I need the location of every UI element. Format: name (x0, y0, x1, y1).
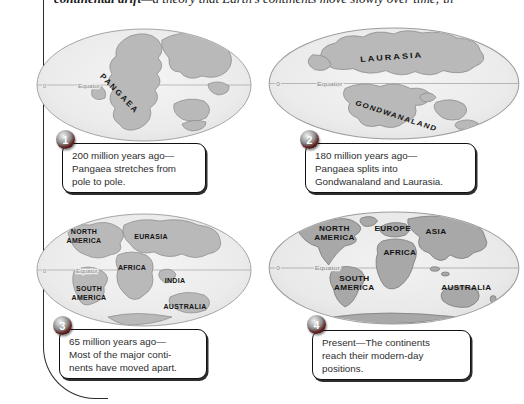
callout-4: Present—The continents reach their moder… (312, 330, 471, 380)
label-eurasia: EURASIA (134, 233, 168, 240)
island-indonesia (441, 272, 449, 276)
callout-text-line: nents have moved apart. (69, 361, 198, 374)
step-badge-2: 2 (300, 130, 319, 149)
callout-1: 200 million years ago— Pangaea stretches… (62, 143, 206, 193)
label-america-s: AMERICA (72, 294, 107, 301)
label-america-s: AMERICA (334, 284, 375, 292)
callout-2: 180 million years ago— Pangaea splits in… (305, 143, 476, 193)
heading-definition: —a theory that Earth's continents move s… (141, 0, 454, 6)
equator-label: Equator (315, 265, 341, 272)
map-laurasia-gondwanaland-180mya: 0 Equator LAURASIA GONDWANALAND (268, 27, 520, 140)
callout-text-line: 65 million years ago— (69, 335, 198, 348)
label-south: SOUTH (339, 275, 369, 283)
label-australia: AUSTRALIA (441, 284, 491, 292)
map-continents-65mya: 0 Equator NORTH AMERICA EURASIA AFRICA S… (36, 213, 252, 327)
callout-text-line: Present—The continents (322, 336, 462, 349)
label-africa: AFRICA (383, 249, 416, 257)
map-continents-present: 0 Equator NORTH AMERICA EUROPE ASIA AFRI… (268, 211, 520, 325)
label-africa: AFRICA (118, 264, 146, 271)
callout-text-line: pole to pole. (72, 175, 197, 188)
callout-text-line: positions. (322, 362, 462, 375)
step-badge-1: 1 (56, 130, 75, 149)
callout-3: 65 million years ago— Most of the major … (59, 329, 207, 379)
landmass-gondwana-southeast (455, 120, 478, 130)
label-australia: AUSTRALIA (163, 303, 206, 310)
callout-text-line: Most of the major conti- (69, 348, 198, 361)
label-north: NORTH (71, 228, 97, 235)
label-america-n: AMERICA (67, 237, 102, 244)
callout-text-line: 180 million years ago— (315, 149, 467, 162)
label-america-n: AMERICA (314, 234, 355, 242)
callout-text-line: Pangaea stretches from (72, 162, 197, 175)
step-badge-4: 4 (307, 315, 326, 334)
island-new-zealand (490, 296, 496, 303)
label-asia: ASIA (426, 228, 447, 236)
callout-text-line: Gondwanaland and Laurasia. (315, 175, 467, 188)
callout-text-line: 200 million years ago— (72, 149, 197, 162)
map-pangaea-200mya: 0 Equator PANGAEA (36, 28, 252, 142)
equator-label: Equator (78, 82, 100, 89)
label-europe: EUROPE (375, 225, 412, 233)
callout-text-line: reach their modern-day (322, 349, 462, 362)
step-badge-3: 3 (53, 316, 72, 335)
equator-label: Equator (76, 267, 98, 274)
label-south: SOUTH (76, 285, 102, 292)
equator-zero-label: 0 (43, 83, 46, 89)
equator-zero-label: 0 (43, 268, 46, 274)
clipped-heading-text: continental drift—a theory that Earth's … (54, 0, 454, 7)
island-southeast-asia (430, 267, 439, 271)
label-north: NORTH (319, 225, 350, 233)
label-india: INDIA (165, 277, 186, 284)
callout-text-line: Pangaea splits into (315, 162, 467, 175)
equator-label: Equator (317, 80, 343, 87)
